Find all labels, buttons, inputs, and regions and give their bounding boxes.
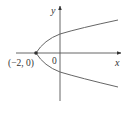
origin-label: 0 — [52, 56, 57, 66]
y-axis-label: y — [50, 5, 56, 16]
parabola-diagram: y x 0 (−2, 0) — [0, 0, 128, 114]
x-axis-label: x — [114, 57, 120, 68]
vertex-point — [34, 51, 38, 55]
vertex-label: (−2, 0) — [8, 58, 34, 69]
parabola-curve — [36, 20, 118, 87]
